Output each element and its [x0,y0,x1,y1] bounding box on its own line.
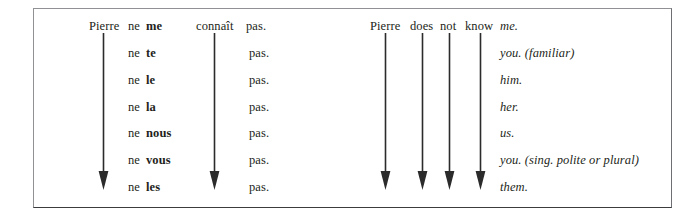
figure-root: Pierre ne me connaît pas. ne te pas. ne … [0,0,700,218]
french-ne-4: ne [128,100,140,114]
french-ne-1: ne [128,19,140,33]
french-pas-4: pas. [249,100,269,114]
arrow-know-en [475,33,486,190]
french-pronoun-2: te [146,46,156,60]
english-negation: not [440,19,456,33]
english-object-5: us. [500,126,515,140]
french-pronoun-3: le [146,73,155,87]
french-pas-5: pas. [249,126,269,140]
arrow-pierre-en [380,33,391,190]
french-pronoun-4: la [146,100,156,114]
french-ne-3: ne [128,73,140,87]
french-pronoun-7: les [146,180,160,194]
english-object-1: me. [500,19,518,33]
french-pas-3: pas. [249,73,269,87]
english-object-2: you. (familiar) [500,46,574,60]
french-ne-2: ne [128,46,140,60]
arrow-pierre-fr [98,33,109,190]
arrow-does-en [417,33,428,190]
english-object-6: you. (sing. polite or plural) [500,153,639,167]
english-object-7: them. [500,180,528,194]
english-auxiliary: does [410,19,433,33]
english-object-4: her. [500,100,519,114]
english-verb: know [465,19,493,33]
french-pronoun-1: me [146,19,162,33]
english-subject: Pierre [370,19,400,33]
arrow-connait-fr [209,33,220,190]
french-subject: Pierre [89,19,119,33]
french-pronoun-5: nous [146,126,171,140]
french-ne-5: ne [128,126,140,140]
french-pas-6: pas. [249,153,269,167]
french-pas-2: pas. [249,46,269,60]
french-pas-1: pas. [246,19,266,33]
french-ne-6: ne [128,153,140,167]
french-verb: connaît [196,19,234,33]
french-pronoun-6: vous [146,153,171,167]
arrow-not-en [444,33,455,190]
french-ne-7: ne [128,180,140,194]
english-object-3: him. [500,73,522,87]
french-pas-7: pas. [249,180,269,194]
